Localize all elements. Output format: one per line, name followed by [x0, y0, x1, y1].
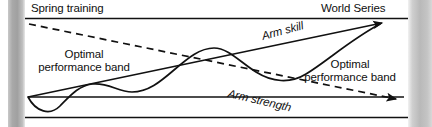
label-world-series: World Series: [321, 2, 385, 15]
label-optimal-right-line2: performance band: [304, 71, 396, 83]
label-spring-training: Spring training: [31, 2, 104, 15]
label-optimal-right-line1: Optimal: [331, 58, 370, 70]
label-optimal-performance-band-right: Optimal performance band: [292, 58, 408, 84]
label-optimal-performance-band-left: Optimal performance band: [29, 48, 139, 74]
label-optimal-left-line1: Optimal: [65, 48, 104, 60]
figure-container: Spring training World Series Optimal per…: [0, 0, 432, 127]
label-optimal-left-line2: performance band: [38, 61, 130, 73]
